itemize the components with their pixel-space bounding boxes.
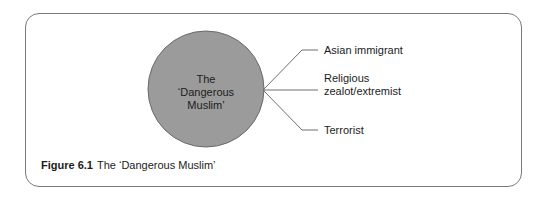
- figure-caption: Figure 6.1The ‘Dangerous Muslim’: [41, 159, 216, 171]
- branch-label-text: Religious: [324, 72, 401, 85]
- connector-terrorist: [263, 90, 318, 130]
- branch-label-text: Asian immigrant: [324, 44, 403, 57]
- branch-label-religious-zealot: Religious zealot/extremist: [324, 72, 401, 98]
- center-node-label: The ‘Dangerous Muslim’: [156, 73, 256, 112]
- center-node-line-3: Muslim’: [156, 99, 256, 112]
- branch-label-terrorist: Terrorist: [324, 124, 364, 137]
- branch-label-text: zealot/extremist: [324, 85, 401, 98]
- branch-label-text: Terrorist: [324, 124, 364, 137]
- connector-asian-immigrant: [263, 50, 318, 90]
- branch-label-asian-immigrant: Asian immigrant: [324, 44, 403, 57]
- figure-caption-text: The ‘Dangerous Muslim’: [97, 159, 216, 171]
- figure-number: Figure 6.1: [41, 159, 93, 171]
- center-node-line-2: ‘Dangerous: [156, 86, 256, 99]
- center-node-line-1: The: [156, 73, 256, 86]
